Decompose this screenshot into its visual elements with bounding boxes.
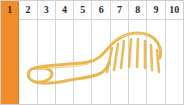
- column-body-6[interactable]: [92, 20, 109, 104]
- grid-column-7[interactable]: 7: [111, 1, 129, 104]
- column-label-1: 1: [7, 5, 12, 15]
- column-body-10[interactable]: [166, 20, 183, 104]
- column-header-2[interactable]: 2: [19, 1, 36, 20]
- column-header-1[interactable]: 1: [1, 1, 18, 20]
- column-body-7[interactable]: [111, 20, 128, 104]
- column-header-6[interactable]: 6: [92, 1, 109, 20]
- column-label-8: 8: [135, 5, 140, 15]
- grid-column-9[interactable]: 9: [147, 1, 165, 104]
- column-body-1[interactable]: [1, 20, 18, 104]
- column-body-2[interactable]: [19, 20, 36, 104]
- column-body-3[interactable]: [38, 20, 55, 104]
- column-label-9: 9: [154, 5, 159, 15]
- column-header-8[interactable]: 8: [129, 1, 146, 20]
- column-header-10[interactable]: 10: [166, 1, 183, 20]
- column-grid: 1 2 3 4 5: [0, 0, 184, 105]
- grid-column-5[interactable]: 5: [74, 1, 92, 104]
- column-label-10: 10: [169, 5, 179, 15]
- grid-column-4[interactable]: 4: [56, 1, 74, 104]
- column-body-5[interactable]: [74, 20, 91, 104]
- column-header-9[interactable]: 9: [147, 1, 164, 20]
- column-header-7[interactable]: 7: [111, 1, 128, 20]
- column-header-4[interactable]: 4: [56, 1, 73, 20]
- column-header-3[interactable]: 3: [38, 1, 55, 20]
- column-body-8[interactable]: [129, 20, 146, 104]
- grid-column-8[interactable]: 8: [129, 1, 147, 104]
- column-label-7: 7: [117, 5, 122, 15]
- column-header-5[interactable]: 5: [74, 1, 91, 20]
- column-label-5: 5: [80, 5, 85, 15]
- grid-column-6[interactable]: 6: [92, 1, 110, 104]
- column-label-3: 3: [44, 5, 49, 15]
- column-body-4[interactable]: [56, 20, 73, 104]
- column-label-6: 6: [99, 5, 104, 15]
- column-body-9[interactable]: [147, 20, 164, 104]
- grid-column-10[interactable]: 10: [166, 1, 183, 104]
- grid-column-3[interactable]: 3: [38, 1, 56, 104]
- worksheet-canvas: 1 2 3 4 5: [0, 0, 184, 105]
- grid-column-2[interactable]: 2: [19, 1, 37, 104]
- column-label-2: 2: [25, 5, 30, 15]
- grid-column-1[interactable]: 1: [1, 1, 19, 104]
- column-label-4: 4: [62, 5, 67, 15]
